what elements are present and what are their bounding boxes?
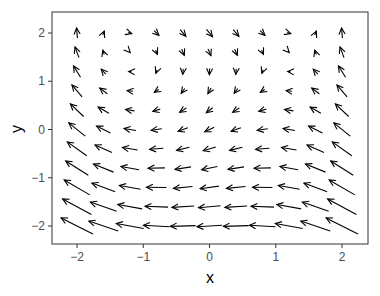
x-tick-label: 1: [272, 250, 279, 264]
y-tick-label: −1: [31, 171, 45, 185]
x-tick-label: 2: [339, 250, 346, 264]
y-axis-title: y: [8, 125, 25, 133]
y-axis: −2−1012: [31, 26, 52, 233]
y-tick-label: 2: [38, 26, 45, 40]
y-tick-label: −2: [31, 219, 45, 233]
x-tick-label: −1: [136, 250, 150, 264]
y-tick-label: 1: [38, 74, 45, 88]
x-axis: −2−1012: [70, 244, 346, 264]
quiver-plot: −2−1012 −2−1012 x y: [0, 0, 380, 296]
x-axis-title: x: [206, 269, 214, 286]
y-tick-label: 0: [38, 123, 45, 137]
x-tick-label: −2: [70, 250, 84, 264]
x-tick-label: 0: [206, 250, 213, 264]
